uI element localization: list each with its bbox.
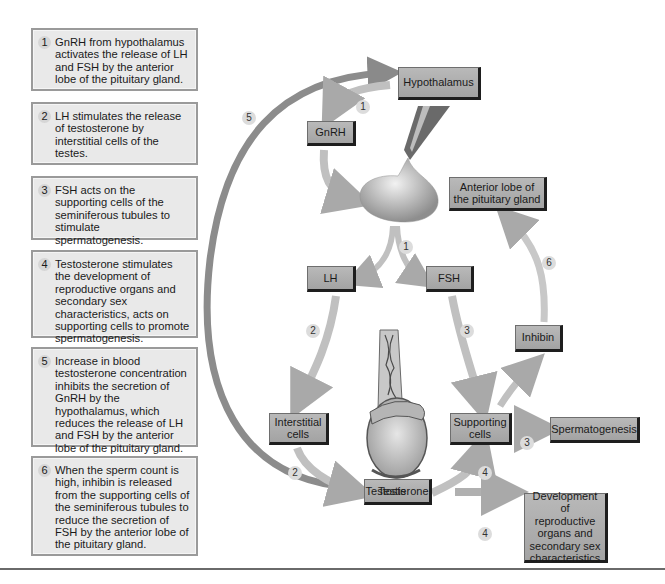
badge-1-top: 1 [356, 100, 370, 114]
badge-2-lower: 2 [288, 466, 302, 480]
node-development: Development of reproductive organs and s… [524, 493, 608, 563]
testis-label: Testis [378, 485, 406, 497]
badge-3-upper: 3 [460, 324, 474, 338]
badge-2-upper: 2 [306, 324, 320, 338]
badge-4-lower: 4 [478, 527, 492, 541]
badge-1-mid: 1 [399, 240, 413, 254]
node-anterior-lobe: Anterior lobe of the pituitary gland [449, 177, 547, 211]
node-interstitial-cells: Interstitial cells [269, 413, 329, 445]
testis-illustration [367, 330, 427, 478]
node-spermatogenesis: Spermatogenesis [550, 417, 640, 443]
node-hypothalamus: Hypothalamus [398, 67, 481, 100]
node-inhibin: Inhibin [515, 325, 563, 352]
badge-6: 6 [542, 256, 556, 270]
badge-5: 5 [242, 111, 256, 125]
node-lh: LH [307, 266, 356, 292]
badge-4-upper: 4 [478, 466, 492, 480]
node-gnrh: GnRH [307, 121, 356, 146]
badge-3-lower: 3 [520, 436, 534, 450]
node-fsh: FSH [426, 266, 474, 292]
divider-rule [0, 568, 665, 570]
node-supporting-cells: Supporting cells [450, 413, 512, 445]
